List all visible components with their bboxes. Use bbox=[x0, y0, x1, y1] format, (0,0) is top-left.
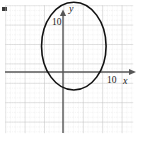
y-axis-tick-label-10: 10 bbox=[52, 18, 62, 28]
x-axis-label: x bbox=[123, 76, 127, 86]
graph-figure: y x 10 10 bbox=[0, 0, 143, 143]
major-gridlines bbox=[5, 5, 133, 133]
grid-layer bbox=[5, 5, 133, 133]
y-axis-label: y bbox=[69, 4, 73, 14]
x-axis-tick-label-10: 10 bbox=[107, 76, 117, 86]
plot-canvas bbox=[0, 0, 143, 143]
